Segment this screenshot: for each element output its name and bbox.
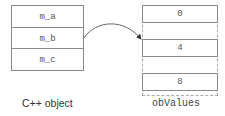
pointer-arrow bbox=[0, 0, 225, 116]
